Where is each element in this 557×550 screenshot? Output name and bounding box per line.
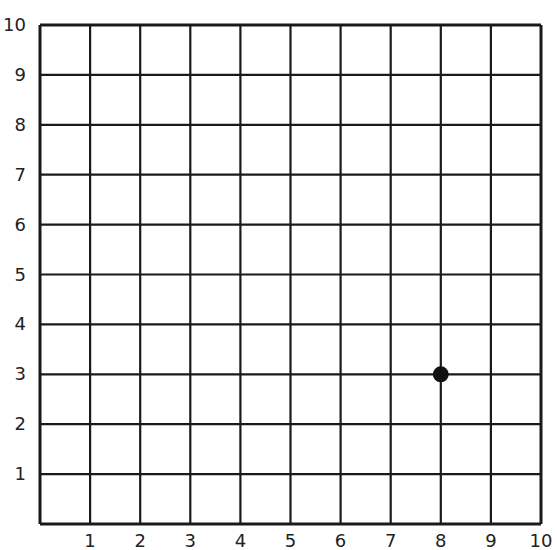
x-axis-ticks: 12345678910 [84, 530, 552, 550]
y-tick-label: 1 [15, 463, 26, 484]
x-tick-label: 1 [84, 530, 95, 550]
x-tick-label: 5 [285, 530, 296, 550]
y-tick-label: 9 [15, 64, 26, 85]
y-tick-label: 5 [15, 264, 26, 285]
x-tick-label: 6 [335, 530, 346, 550]
y-tick-label: 4 [15, 313, 26, 334]
x-tick-label: 8 [435, 530, 446, 550]
y-tick-label: 2 [15, 413, 26, 434]
grid-lines [40, 25, 541, 524]
y-tick-label: 3 [15, 363, 26, 384]
x-tick-label: 7 [385, 530, 396, 550]
y-axis-ticks: 12345678910 [3, 14, 26, 484]
x-tick-label: 3 [185, 530, 196, 550]
y-tick-label: 6 [15, 214, 26, 235]
coordinate-grid-chart: 12345678910 12345678910 [0, 0, 557, 550]
y-tick-label: 10 [3, 14, 26, 35]
data-point-dot [433, 366, 449, 382]
x-tick-label: 2 [134, 530, 145, 550]
x-tick-label: 9 [485, 530, 496, 550]
x-tick-label: 10 [530, 530, 553, 550]
data-points [433, 366, 449, 382]
y-tick-label: 8 [15, 114, 26, 135]
y-tick-label: 7 [15, 164, 26, 185]
x-tick-label: 4 [235, 530, 246, 550]
